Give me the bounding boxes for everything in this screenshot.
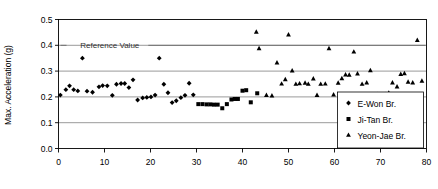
- y-axis-ticks: 0.00.10.20.30.40.5: [41, 15, 59, 154]
- series-3: [254, 29, 424, 97]
- marker-diamond: [149, 95, 154, 100]
- chart-canvas: Max. Acceleration (g) 0.00.10.20.30.40.5…: [0, 0, 438, 189]
- marker-triangle: [264, 92, 269, 96]
- marker-triangle: [279, 81, 284, 85]
- marker-diamond: [105, 83, 110, 88]
- marker-diamond: [80, 56, 85, 61]
- x-axis-ticks: 01020304050607080: [56, 149, 431, 167]
- marker-triangle: [283, 77, 288, 81]
- marker-square: [244, 88, 248, 92]
- legend-label: E-Won Br.: [358, 99, 397, 109]
- marker-triangle: [327, 46, 332, 50]
- marker-diamond: [174, 98, 179, 103]
- marker-square: [249, 100, 253, 104]
- x-tick-label: 20: [146, 157, 156, 167]
- marker-diamond: [144, 95, 149, 100]
- marker-triangle: [395, 84, 400, 88]
- marker-diamond: [75, 89, 80, 94]
- marker-triangle: [270, 93, 275, 97]
- marker-triangle: [355, 71, 360, 75]
- marker-diamond: [71, 87, 76, 92]
- y-axis-title: Max. Acceleration (g): [3, 45, 13, 125]
- marker-diamond: [170, 100, 175, 105]
- marker-triangle: [315, 92, 320, 96]
- marker-triangle: [410, 80, 415, 84]
- marker-diamond: [131, 77, 136, 82]
- x-tick-label: 50: [284, 157, 294, 167]
- marker-diamond: [166, 90, 171, 95]
- marker-diamond: [178, 95, 183, 100]
- marker-diamond: [114, 82, 119, 87]
- marker-triangle: [398, 72, 403, 76]
- marker-triangle: [311, 76, 316, 80]
- marker-triangle: [364, 80, 369, 84]
- x-tick-label: 30: [192, 157, 202, 167]
- legend-label: Yeon-Jae Br.: [358, 131, 406, 141]
- marker-diamond: [85, 89, 90, 94]
- marker-triangle: [415, 38, 420, 42]
- marker-diamond: [90, 90, 95, 95]
- marker-square: [216, 103, 220, 107]
- y-axis-title-group: Max. Acceleration (g): [3, 45, 13, 125]
- reference-value-annotation: Reference Value: [61, 41, 426, 50]
- marker-square: [255, 91, 259, 95]
- marker-diamond: [122, 81, 127, 86]
- y-tick-label: 0.3: [41, 66, 53, 76]
- marker-triangle: [323, 81, 328, 85]
- x-tick-label: 40: [238, 157, 248, 167]
- marker-diamond: [161, 82, 166, 87]
- marker-triangle: [420, 78, 425, 82]
- marker-diamond: [140, 96, 145, 101]
- x-tick-label: 60: [330, 157, 340, 167]
- marker-triangle: [275, 60, 280, 64]
- y-tick-label: 0.2: [41, 92, 53, 102]
- x-tick-label: 80: [422, 157, 432, 167]
- scatter-chart: Max. Acceleration (g) 0.00.10.20.30.40.5…: [0, 0, 438, 189]
- marker-square: [236, 97, 240, 101]
- x-tick-label: 0: [56, 157, 61, 167]
- marker-square: [212, 103, 216, 107]
- marker-diamond: [157, 56, 162, 61]
- y-tick-label: 0.1: [41, 118, 53, 128]
- marker-diamond: [63, 87, 68, 92]
- y-tick-label: 0.0: [41, 144, 53, 154]
- y-tick-label: 0.5: [41, 15, 53, 25]
- y-tick-label: 0.4: [41, 40, 53, 50]
- marker-triangle: [290, 68, 295, 72]
- marker-triangle: [286, 32, 291, 36]
- marker-square: [220, 106, 224, 110]
- marker-diamond: [187, 81, 192, 86]
- marker-triangle: [390, 80, 395, 84]
- series-2: [196, 88, 259, 110]
- marker-triangle: [303, 80, 308, 84]
- marker-triangle: [297, 81, 302, 85]
- marker-diamond: [67, 83, 72, 88]
- marker-triangle: [318, 81, 323, 85]
- marker-square: [225, 102, 229, 106]
- marker-triangle: [347, 72, 352, 76]
- legend-marker-square: [347, 117, 351, 121]
- marker-triangle: [257, 46, 262, 50]
- marker-square: [205, 102, 209, 106]
- x-tick-label: 70: [376, 157, 386, 167]
- marker-triangle: [406, 79, 411, 83]
- marker-triangle: [336, 80, 341, 84]
- marker-square: [196, 102, 200, 106]
- marker-square: [241, 89, 245, 93]
- x-tick-label: 10: [100, 157, 110, 167]
- marker-triangle: [254, 29, 259, 33]
- marker-diamond: [135, 98, 140, 103]
- marker-triangle: [368, 68, 373, 72]
- chart-legend: E-Won Br.Ji-Tan Br.Yeon-Jae Br.: [338, 92, 424, 148]
- legend-label: Ji-Tan Br.: [358, 115, 393, 125]
- marker-square: [208, 102, 212, 106]
- marker-square: [200, 102, 204, 106]
- marker-diamond: [126, 85, 131, 90]
- series-1: [58, 56, 196, 105]
- marker-triangle: [331, 92, 336, 96]
- marker-triangle: [360, 81, 365, 85]
- marker-triangle: [343, 72, 348, 76]
- annotation-label: Reference Value: [80, 41, 140, 50]
- marker-triangle: [351, 49, 356, 53]
